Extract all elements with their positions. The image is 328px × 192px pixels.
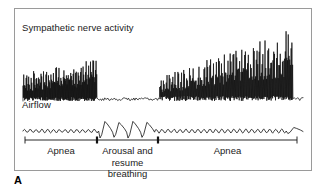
panel-letter-label: A: [14, 174, 22, 186]
figure-panel-a: Sympathetic nerve activity Airflow Apnea…: [0, 0, 328, 192]
signal-label-airflow: Airflow: [22, 99, 51, 110]
axis-segment-label-arousal: Arousal and resume breathing: [97, 145, 158, 180]
signal-label-sympathetic-nerve-activity: Sympathetic nerve activity: [22, 22, 134, 33]
axis-segment-label-apnea-first: Apnea: [25, 145, 97, 157]
axis-segment-label-apnea-second: Apnea: [158, 145, 297, 157]
